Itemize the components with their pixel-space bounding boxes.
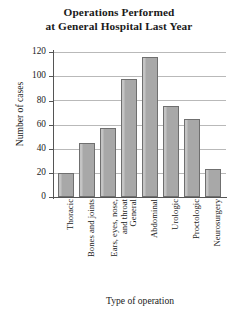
y-tick-mark-0 <box>49 197 54 198</box>
chart-title: Operations Performed at General Hospital… <box>0 6 238 33</box>
bar-bones-joints <box>79 143 95 197</box>
cat-text: Proctologic <box>192 199 202 239</box>
cat-text: Bones and joints <box>87 199 97 257</box>
bar-ears-eyes-nose-throat <box>100 128 116 197</box>
x-axis-title: Type of operation <box>54 296 226 306</box>
cat-text: Abdominal <box>150 199 160 238</box>
bar-proctologic <box>184 119 200 198</box>
bar-thoracic <box>58 173 74 197</box>
gridline-60 <box>54 125 226 126</box>
cat-text: Urologic <box>171 199 181 230</box>
y-tick-label-20: 20 <box>16 168 46 177</box>
bar-chart-figure: Operations Performed at General Hospital… <box>0 0 238 313</box>
gridline-100 <box>54 76 226 77</box>
y-tick-label-0: 0 <box>16 192 46 201</box>
chart-title-line-1: Operations Performed <box>0 6 238 20</box>
x-axis-category-labels: Thoracic Bones and joints Ears, eyes, no… <box>54 199 226 291</box>
cat-text: Thoracic <box>66 199 76 230</box>
bar-urologic <box>163 106 179 197</box>
cat-text: Neurosurgery <box>213 199 223 247</box>
cat-text: General <box>129 199 139 227</box>
plot-area <box>54 52 226 197</box>
y-tick-label-100: 100 <box>16 71 46 80</box>
y-tick-label-80: 80 <box>16 96 46 105</box>
gridline-80 <box>54 100 226 101</box>
chart-title-line-2: at General Hospital Last Year <box>0 20 238 34</box>
bar-abdominal <box>142 57 158 197</box>
bar-neurosurgery <box>205 169 221 197</box>
y-tick-label-60: 60 <box>16 120 46 129</box>
gridline-120 <box>54 52 226 53</box>
x-axis-line <box>53 197 227 198</box>
y-tick-label-40: 40 <box>16 144 46 153</box>
bar-general <box>121 79 137 197</box>
y-tick-label-120: 120 <box>16 47 46 56</box>
